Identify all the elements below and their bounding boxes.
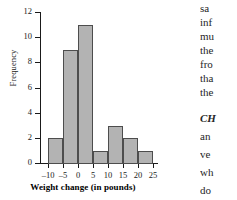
y-tick: 8 [35, 62, 40, 63]
text-line: the [200, 45, 213, 56]
y-tick: 0 [35, 163, 40, 164]
y-tick-label: 6 [28, 82, 32, 92]
y-tick-label: 4 [28, 107, 32, 117]
text-line: ve [200, 149, 210, 160]
y-axis-line [40, 12, 41, 164]
x-tick-label: 15 [119, 170, 128, 180]
histogram-bar [108, 126, 123, 164]
x-tick-label: –5 [59, 170, 68, 180]
y-tick-label: 2 [28, 132, 32, 142]
histogram-bar [63, 50, 78, 164]
y-tick-label: 10 [24, 31, 33, 41]
x-tick-label: 25 [149, 170, 158, 180]
histogram-bar [123, 138, 138, 164]
text-line: sa [200, 3, 209, 14]
y-tick-label: 12 [24, 6, 33, 16]
y-axis-title: Frequency [8, 33, 18, 103]
body-text-column: sa inf mu the fro tha the CH an ve wh do [200, 0, 237, 200]
text-line: the [200, 87, 213, 98]
x-tick [153, 163, 154, 168]
y-tick-label: 0 [28, 157, 32, 167]
histogram-bar [93, 151, 108, 164]
section-heading-fragment: CH [200, 113, 216, 124]
y-tick: 6 [35, 88, 40, 89]
x-tick-label: 5 [91, 170, 95, 180]
x-tick-label: 20 [134, 170, 143, 180]
x-tick-label: 0 [76, 170, 80, 180]
y-tick-label: 8 [28, 56, 32, 66]
text-line: tha [200, 73, 213, 84]
x-tick-label: –10 [42, 170, 55, 180]
histogram-figure: Frequency 12 10 8 6 4 2 0 [0, 0, 170, 200]
x-tick-label: 10 [104, 170, 113, 180]
y-tick: 12 [35, 12, 40, 13]
y-tick: 10 [35, 37, 40, 38]
y-tick: 2 [35, 138, 40, 139]
text-line: an [200, 131, 210, 142]
text-line: mu [200, 31, 214, 42]
text-line: wh [200, 167, 213, 178]
text-line: do [200, 185, 211, 196]
text-line: inf [200, 17, 212, 28]
histogram-bar [138, 151, 153, 164]
text-line: fro [200, 59, 213, 70]
x-axis-title: Weight change (in pounds) [0, 182, 166, 192]
histogram-bar [78, 25, 93, 164]
textbook-page-fragment: Frequency 12 10 8 6 4 2 0 [0, 0, 237, 200]
histogram-bar [48, 138, 63, 164]
y-tick: 4 [35, 113, 40, 114]
